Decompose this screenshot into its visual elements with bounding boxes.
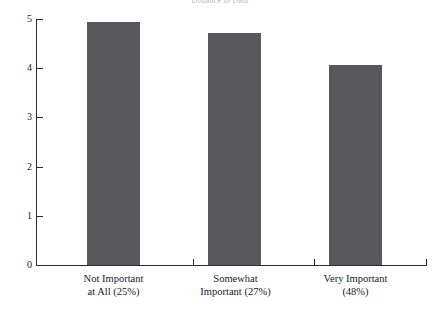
x-axis-label-very-important: Very Important (48%) — [294, 272, 417, 298]
x-axis-label-line-1: Very Important — [294, 272, 417, 285]
bar-not-important-at-all — [87, 22, 140, 265]
y-tick-label-5: 5 — [4, 14, 32, 24]
bar-very-important — [329, 65, 382, 265]
bar-somewhat-important — [208, 33, 261, 265]
chart-title: Distance in Dam — [0, 0, 440, 3]
x-axis-label-line-2: Important (27%) — [174, 285, 297, 298]
bar-chart: Distance in Dam 5 4 3 2 1 0 Not Importan… — [0, 0, 440, 318]
x-axis-label-line-2: (48%) — [294, 285, 417, 298]
bars-layer — [37, 19, 427, 265]
y-tick-label-0: 0 — [4, 260, 32, 270]
x-axis-label-somewhat-important: Somewhat Important (27%) — [174, 272, 297, 298]
x-axis-label-not-important-at-all: Not Important at All (25%) — [52, 272, 175, 298]
y-tick-label-3: 3 — [4, 112, 32, 122]
x-axis-label-line-2: at All (25%) — [52, 285, 175, 298]
x-axis-label-line-1: Somewhat — [174, 272, 297, 285]
x-axis-line — [36, 265, 427, 266]
y-tick-label-1: 1 — [4, 211, 32, 221]
y-tick-label-2: 2 — [4, 162, 32, 172]
x-axis-label-line-1: Not Important — [52, 272, 175, 285]
y-tick-label-4: 4 — [4, 63, 32, 73]
